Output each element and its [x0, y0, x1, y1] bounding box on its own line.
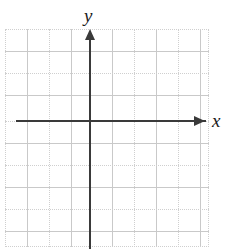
x-axis-label: x [212, 111, 220, 130]
y-axis-label: y [84, 6, 92, 25]
y-axis-line [89, 31, 91, 249]
gridline-horizontal [5, 187, 209, 188]
x-axis-arrow-icon [194, 116, 205, 126]
gridline-horizontal [5, 231, 209, 232]
x-axis-line [16, 120, 206, 122]
y-axis-arrow-icon [85, 29, 95, 40]
grid-plot-area [5, 29, 209, 247]
gridline-horizontal [5, 51, 209, 52]
gridline-horizontal [5, 246, 209, 247]
gridline-horizontal [5, 73, 209, 74]
gridline-horizontal [5, 209, 209, 210]
gridline-horizontal [5, 29, 209, 30]
gridline-horizontal [5, 95, 209, 96]
gridlines-horizontal [5, 29, 209, 247]
gridline-horizontal [5, 143, 209, 144]
coordinate-plane-figure: x y [0, 0, 229, 250]
gridline-horizontal [5, 165, 209, 166]
